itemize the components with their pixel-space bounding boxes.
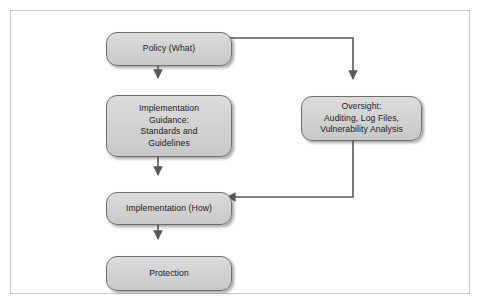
protection-node[interactable]: Protection [106, 256, 232, 291]
oversight-node[interactable]: Oversight: Auditing, Log Files, Vulnerab… [301, 96, 422, 141]
implementation-node-label: Implementation (How) [111, 203, 227, 215]
implementation-guidance-node[interactable]: Implementation Guidance: Standards and G… [106, 95, 232, 157]
oversight-line-1: Oversight: [306, 101, 417, 113]
guidance-line-2: Guidance: [111, 115, 227, 127]
policy-node-label: Policy (What) [111, 43, 227, 55]
oversight-line-2: Auditing, Log Files, [306, 113, 417, 125]
protection-line-1: Protection [111, 268, 227, 280]
protection-node-label: Protection [111, 268, 227, 280]
implementation-guidance-node-label: Implementation Guidance: Standards and G… [111, 103, 227, 149]
oversight-node-label: Oversight: Auditing, Log Files, Vulnerab… [306, 101, 417, 136]
oversight-line-3: Vulnerability Analysis [306, 124, 417, 136]
guidance-line-4: Guidelines [111, 138, 227, 150]
diagram-canvas: Policy (What) Implementation Guidance: S… [0, 0, 486, 308]
implementation-line-1: Implementation (How) [111, 203, 227, 215]
guidance-line-3: Standards and [111, 126, 227, 138]
policy-node[interactable]: Policy (What) [106, 32, 232, 66]
guidance-line-1: Implementation [111, 103, 227, 115]
diagram-frame: Policy (What) Implementation Guidance: S… [10, 10, 470, 294]
policy-line-1: Policy (What) [111, 43, 227, 55]
connector-policy-to-oversight [221, 38, 353, 79]
implementation-node[interactable]: Implementation (How) [106, 192, 232, 225]
connector-layer [0, 0, 486, 308]
